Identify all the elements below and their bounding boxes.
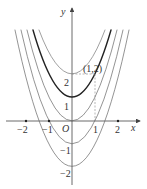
x-axis-label: x [130,122,136,133]
y-tick-label-neg2: −2 [60,168,71,179]
x-tick-label-neg1: −1 [42,124,53,135]
y-tick-label-1: 1 [64,101,69,112]
x-tick-label-neg2: −2 [17,124,28,135]
y-tick-label-2: 2 [64,77,69,88]
tick-point-2 [117,120,119,122]
x-tick-label-1: 1 [93,124,98,135]
parabola-family-diagram: y x O (1,2) −2 −1 1 2 2 1 −1 −2 [0,0,147,189]
point-label: (1,2) [83,63,102,75]
y-tick-label-neg1: −1 [60,145,71,156]
x-tick-label-2: 2 [115,124,120,135]
tick-point-neg2 [25,120,27,122]
origin-label: O [62,123,69,134]
y-axis-label: y [60,6,66,17]
tick-point-neg1 [48,120,50,122]
